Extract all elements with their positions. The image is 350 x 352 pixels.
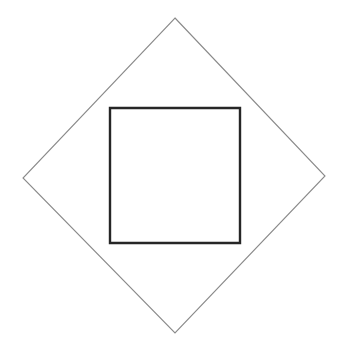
geometry-diagram [0, 0, 350, 352]
figure-canvas [0, 0, 350, 352]
diagram-background [0, 0, 350, 352]
